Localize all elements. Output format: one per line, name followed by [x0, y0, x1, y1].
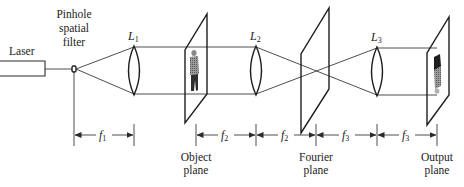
dimension-f2-second: f2	[257, 128, 315, 143]
lens-l1-label: L1	[127, 29, 139, 44]
lens-l2-label: L2	[249, 29, 261, 44]
pinhole-icon	[72, 66, 76, 72]
optical-diagram: Laser Pinhole spatial filter L1 L2	[0, 0, 464, 187]
object-image	[190, 50, 199, 91]
dimension-f3-second: f3	[378, 128, 436, 143]
laser: Laser	[0, 45, 45, 76]
diverging-ray-top	[76, 47, 134, 69]
lens-icon	[251, 46, 262, 95]
pinhole-spatial-filter: Pinhole spatial filter	[56, 8, 91, 72]
dimension-f2-first: f2	[197, 128, 255, 143]
pinhole-label-2: spatial	[59, 22, 89, 35]
output-image	[434, 54, 441, 94]
fourier-plane-label-1: Fourier	[299, 151, 333, 163]
lens-icon	[129, 46, 140, 95]
lens-l3-label: L3	[370, 30, 382, 45]
lens-l2: L2	[249, 29, 262, 95]
pinhole-label-1: Pinhole	[56, 8, 91, 20]
dimension-f1: f1	[75, 128, 133, 143]
lens-icon	[372, 47, 383, 96]
output-plane-label-1: Output	[421, 151, 454, 164]
object-plane	[185, 14, 207, 123]
svg-text:f1: f1	[99, 128, 106, 143]
lens-l3: L3	[370, 30, 383, 96]
output-plane-label-2: plane	[425, 164, 450, 177]
fourier-plane-label-2: plane	[304, 164, 329, 177]
svg-text:f2: f2	[281, 128, 288, 143]
svg-text:f3: f3	[342, 128, 349, 143]
svg-text:f3: f3	[402, 128, 409, 143]
object-plane-label-2: plane	[184, 164, 209, 177]
lens-l1: L1	[127, 29, 140, 95]
laser-label: Laser	[9, 45, 35, 57]
pinhole-label-3: filter	[63, 36, 86, 48]
crossing-ray-2	[256, 48, 377, 94]
output-plane	[427, 17, 449, 125]
object-plane-label-1: Object	[181, 151, 212, 164]
dimension-f3-first: f3	[317, 128, 376, 143]
diverging-ray-bottom	[76, 69, 134, 94]
svg-text:f2: f2	[221, 128, 228, 143]
